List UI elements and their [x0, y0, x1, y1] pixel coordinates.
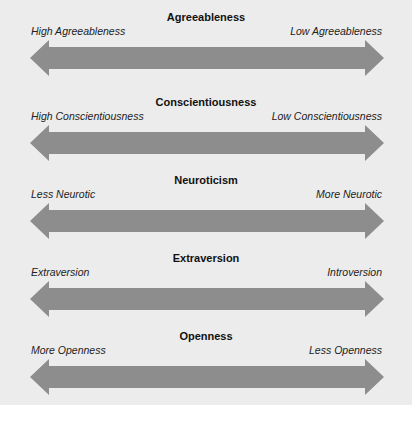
double-arrow-icon [0, 38, 412, 78]
left-pole-label: Less Neurotic [31, 188, 95, 200]
scale-extraversion: Extraversion Extraversion Introversion [0, 252, 412, 330]
left-pole-label: Extraversion [31, 266, 89, 278]
scale-title: Openness [0, 330, 412, 342]
scale-neuroticism: Neuroticism Less Neurotic More Neurotic [0, 174, 412, 252]
scale-title: Extraversion [0, 252, 412, 264]
scale-openness: Openness More Openness Less Openness [0, 330, 412, 408]
right-pole-label: More Neurotic [316, 188, 382, 200]
scale-title: Neuroticism [0, 174, 412, 186]
double-arrow-icon [0, 279, 412, 319]
left-pole-label: More Openness [31, 344, 106, 356]
scale-title: Agreeableness [0, 11, 412, 23]
scale-title: Conscientiousness [0, 96, 412, 108]
right-pole-label: Introversion [327, 266, 382, 278]
double-arrow-icon [0, 123, 412, 163]
double-arrow-icon [0, 201, 412, 241]
diagram-panel: Agreeableness High Agreeableness Low Agr… [0, 0, 412, 405]
left-pole-label: High Conscientiousness [31, 110, 144, 122]
left-pole-label: High Agreeableness [31, 25, 125, 37]
scale-conscientiousness: Conscientiousness High Conscientiousness… [0, 96, 412, 174]
scale-agreeableness: Agreeableness High Agreeableness Low Agr… [0, 11, 412, 89]
double-arrow-icon [0, 357, 412, 397]
right-pole-label: Low Conscientiousness [272, 110, 382, 122]
right-pole-label: Less Openness [309, 344, 382, 356]
right-pole-label: Low Agreeableness [290, 25, 382, 37]
